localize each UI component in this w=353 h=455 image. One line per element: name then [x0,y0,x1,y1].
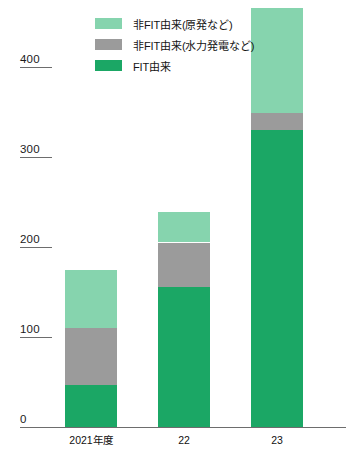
y-axis-label-300: 300 [20,143,40,155]
legend-item-non-fit-hydro: 非FIT由来(水力発電など) [95,35,325,54]
y-axis-tickline-300 [20,157,52,158]
bar-segment-22-FIT [158,212,210,243]
bar-segment-23-FIT [251,113,303,130]
bar-segment-23-FIT [251,130,303,427]
bar-segment-2021-FIT [65,270,117,329]
legend-label-non-fit-hydro: 非FIT由来(水力発電など) [133,37,254,53]
y-axis-label-200: 200 [20,233,40,245]
chart-legend: 非FIT由来(原発など) 非FIT由来(水力発電など) FIT由来 [95,14,325,77]
legend-label-non-fit-nuclear: 非FIT由来(原発など) [133,16,233,32]
y-axis-tickline-200 [20,247,52,248]
legend-item-fit: FIT由来 [95,56,325,75]
legend-label-fit: FIT由来 [133,58,171,74]
stacked-bar-chart: 400 300 200 100 0 2021年度2223 非FIT由来(原発など… [0,0,353,455]
bar-segment-2021-FIT [65,328,117,385]
y-axis-label-100: 100 [20,323,40,335]
bar-segment-22-FIT [158,287,210,427]
bar-segment-2021-FIT [65,385,117,427]
y-axis-label-400: 400 [20,53,40,65]
x-axis-baseline [20,427,346,428]
x-axis-label-3: 23 [222,434,332,446]
y-axis-tickline-400 [20,67,52,68]
legend-item-non-fit-nuclear: 非FIT由来(原発など) [95,14,325,33]
legend-swatch-non-fit-hydro [95,39,122,50]
legend-swatch-fit [95,60,122,71]
y-axis-tickline-100 [20,337,52,338]
y-axis-label-0: 0 [20,413,27,425]
bar-segment-22-FIT [158,243,210,287]
legend-swatch-non-fit-nuclear [95,18,122,29]
